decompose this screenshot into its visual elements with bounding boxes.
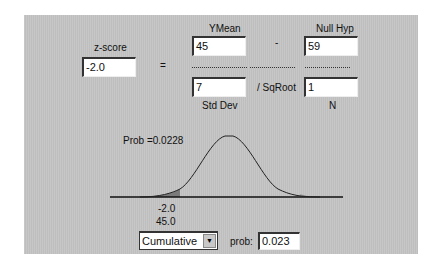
probability-annotation: Prob =0.0228	[123, 135, 183, 146]
raw-axis-label: 45.0	[156, 216, 175, 227]
chevron-down-icon[interactable]: ▼	[203, 234, 216, 248]
prob-field[interactable]: 0.023	[258, 232, 300, 250]
normal-curve-chart	[0, 0, 443, 271]
z-axis-label: -2.0	[158, 203, 175, 214]
mode-selected: Cumulative	[142, 235, 197, 247]
prob-label: prob:	[230, 236, 253, 247]
mode-dropdown[interactable]: Cumulative ▼	[139, 231, 218, 250]
